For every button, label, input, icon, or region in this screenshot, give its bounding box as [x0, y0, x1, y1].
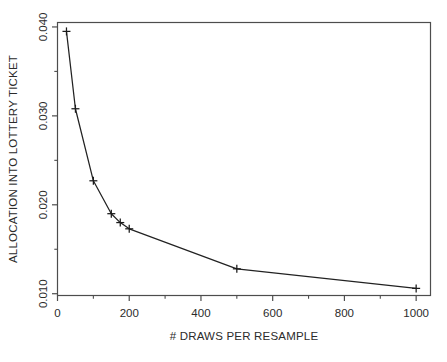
x-tick-label: 0 — [54, 307, 60, 319]
x-tick-label: 1000 — [403, 307, 429, 319]
y-axis-title: ALLOCATION INTO LOTTERY TICKET — [7, 55, 19, 263]
y-tick-label: 0.010 — [37, 279, 49, 308]
data-point-marker — [62, 27, 70, 35]
line-chart-canvas: 020040060080010000.0100.0200.0300.040# D… — [0, 0, 447, 362]
data-point-marker — [125, 225, 133, 233]
x-tick-label: 600 — [263, 307, 282, 319]
y-tick-label: 0.030 — [37, 101, 49, 130]
plot-frame — [58, 23, 431, 296]
data-point-marker — [233, 265, 241, 273]
x-tick-label: 400 — [191, 307, 210, 319]
x-tick-label: 800 — [335, 307, 354, 319]
data-point-marker — [89, 177, 97, 185]
x-tick-label: 200 — [120, 307, 139, 319]
chart-figure: 020040060080010000.0100.0200.0300.040# D… — [0, 0, 447, 362]
y-tick-label: 0.040 — [37, 13, 49, 42]
data-point-marker — [412, 284, 420, 292]
y-tick-label: 0.020 — [37, 190, 49, 219]
x-axis-title: # DRAWS PER RESAMPLE — [170, 330, 319, 342]
data-point-marker — [71, 105, 79, 113]
data-series-line — [66, 31, 416, 288]
